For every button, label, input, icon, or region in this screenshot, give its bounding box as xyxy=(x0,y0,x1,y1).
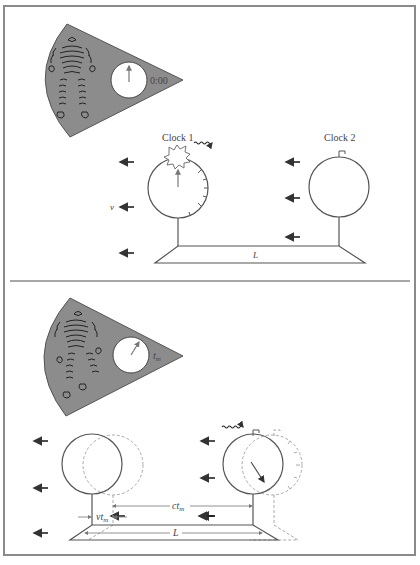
observer-clock-reading: 0:00 xyxy=(150,75,168,86)
bottom-panel: tm xyxy=(34,298,302,540)
velocity-label: v xyxy=(110,202,114,212)
clock-2: Clock 2 xyxy=(309,132,369,246)
clock-1-label: Clock 1 xyxy=(162,132,193,143)
platform xyxy=(155,246,365,263)
light-signal-icon xyxy=(222,426,243,428)
observer-view-fan: 0:00 xyxy=(45,24,183,137)
clock-2-hand xyxy=(251,462,264,482)
vt-label: vtm xyxy=(96,511,108,524)
top-panel: 0:00 v Clock 1 xyxy=(45,24,369,263)
relativity-diagram: 0:00 v Clock 1 xyxy=(0,0,420,565)
clock-1: Clock 1 xyxy=(148,132,212,246)
light-signal-icon xyxy=(194,142,212,144)
length-label: L xyxy=(252,250,258,260)
observer-view-fan: tm xyxy=(44,298,183,416)
length-label: L xyxy=(172,527,179,538)
clock-2-label: Clock 2 xyxy=(324,132,355,143)
velocity-arrows xyxy=(34,441,215,533)
velocity-arrows xyxy=(120,162,300,253)
